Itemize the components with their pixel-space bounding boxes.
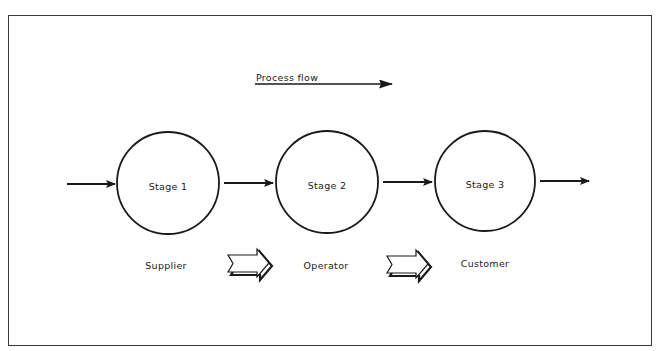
process-flow-diagram [0,0,663,351]
supplier-label: Supplier [145,260,187,271]
stage-1-label: Stage 1 [149,181,188,192]
operator-to-customer-block-arrow [387,250,431,281]
stage-2-label: Stage 2 [308,180,347,191]
operator-label: Operator [304,260,349,271]
supplier-to-operator-block-arrow [228,249,272,280]
process-flow-label: Process flow [256,72,318,83]
customer-label: Customer [461,258,510,269]
stage-3-label: Stage 3 [466,179,505,190]
